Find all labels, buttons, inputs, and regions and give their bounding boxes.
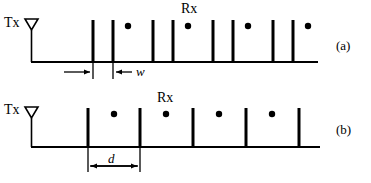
- panel-a-rx-dot: [305, 23, 311, 29]
- antenna-layout-diagram: [0, 0, 371, 183]
- figure-canvas: Tx Rx w (a) Tx Rx d (b): [0, 0, 371, 183]
- panel-a-tx-label: Tx: [4, 16, 20, 30]
- panel-b-dimension-label-d: d: [108, 152, 115, 165]
- panel-a-rx-dot: [125, 23, 131, 29]
- panel-a-group: [25, 19, 318, 79]
- panel-a-label: (a): [336, 39, 350, 52]
- panel-b-rx-dot: [216, 111, 222, 117]
- panel-b-group: [25, 107, 320, 172]
- panel-b-tx-antenna-icon: [25, 107, 38, 118]
- panel-b-rx-dot: [269, 111, 275, 117]
- panel-b-rx-label: Rx: [157, 91, 173, 105]
- panel-a-rx-label: Rx: [181, 2, 197, 16]
- panel-b-rx-dot: [111, 111, 117, 117]
- panel-a-dimension-label-w: w: [136, 65, 145, 78]
- panel-a-tx-antenna-icon: [25, 19, 38, 30]
- panel-b-rx-dot: [163, 111, 169, 117]
- panel-a-rx-dot: [185, 23, 191, 29]
- panel-b-label: (b): [336, 123, 351, 136]
- panel-a-rx-dot: [245, 23, 251, 29]
- panel-b-tx-label: Tx: [4, 103, 20, 117]
